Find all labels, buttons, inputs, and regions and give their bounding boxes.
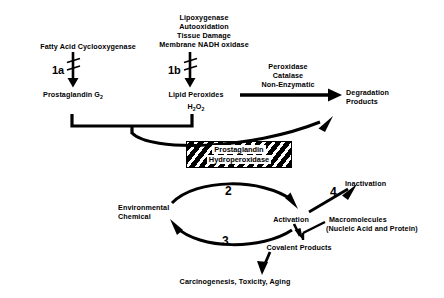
line-macromolecules-covalent	[303, 222, 325, 240]
substrate-join-bracket	[72, 114, 192, 134]
enzyme-box-line2: Hydroperoxidase	[207, 155, 271, 165]
arrow-step-3	[170, 219, 292, 245]
arrow-step-4	[309, 184, 357, 212]
arrow-1a	[67, 52, 80, 88]
pathway-diagram: Fatty Acid Cyclooxygenase Lipoxygenase A…	[0, 0, 444, 298]
arrow-covalent-outcome	[257, 252, 270, 275]
enzyme-box-line1: Prostaglandin	[212, 145, 265, 155]
arrow-activation-covalent	[294, 224, 303, 240]
arrow-step-2	[172, 184, 298, 209]
curve-substrate-to-degradation	[132, 116, 333, 145]
arrow-1b	[184, 52, 197, 88]
arrow-peroxide-degradation	[240, 89, 342, 102]
